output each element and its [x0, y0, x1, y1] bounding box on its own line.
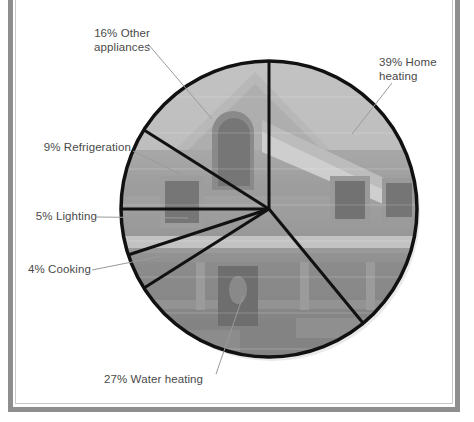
- figure-frame-inner: [15, 0, 453, 404]
- figure-root: 16% Other appliances 39% Home heating 9%…: [0, 0, 474, 422]
